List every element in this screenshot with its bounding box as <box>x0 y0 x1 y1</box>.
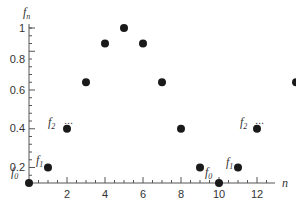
y-tick-label: 0.8 <box>10 53 25 65</box>
x-tick-label: 2 <box>64 188 70 200</box>
x-ticks <box>39 177 267 183</box>
annotation-f1: f1 <box>36 153 43 169</box>
x-tick-label: 12 <box>251 188 263 200</box>
x-tick-label: 4 <box>102 188 108 200</box>
x-tick-label: 8 <box>178 188 184 200</box>
y-tick-label: 0.6 <box>10 84 25 96</box>
annotation-f2: f2 <box>240 115 247 131</box>
y-tick-label: 0.4 <box>10 122 25 134</box>
data-points <box>25 24 296 187</box>
y-tick-label: 1 <box>19 22 25 34</box>
chart: 1 0.8 0.6 0.4 0.2 2 4 6 8 10 12 fn n f0 … <box>0 0 296 207</box>
x-tick-label: 6 <box>140 188 146 200</box>
y-axis-label: fn <box>23 5 30 21</box>
annotation-f2: f2 <box>48 115 55 131</box>
x-axis-label: n <box>282 176 288 190</box>
annotation-ellipsis: ... <box>64 114 73 126</box>
y-ticks <box>29 28 35 175</box>
annotation-ellipsis: ... <box>255 114 264 126</box>
annotation-f0: f0 <box>205 165 212 181</box>
annotation-f1: f1 <box>226 155 233 171</box>
x-tick-label: 10 <box>213 188 225 200</box>
